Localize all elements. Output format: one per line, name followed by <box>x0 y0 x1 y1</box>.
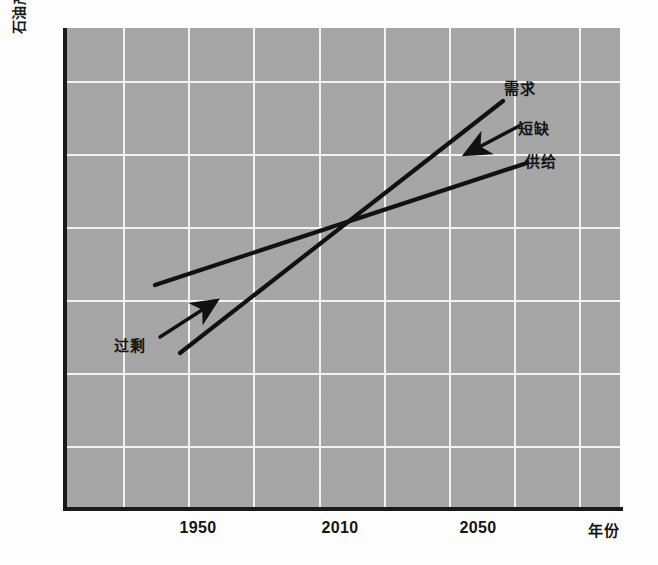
x-axis-spine <box>63 507 623 511</box>
x-tick-label-1950: 1950 <box>148 519 248 537</box>
series-label-surplus: 过剩 <box>114 334 145 355</box>
gridline-vertical <box>579 28 581 507</box>
gridline-horizontal <box>66 300 620 302</box>
gridline-vertical <box>514 28 516 507</box>
gridline-vertical <box>123 28 125 507</box>
gridline-horizontal <box>66 373 620 375</box>
gridline-horizontal <box>66 446 620 448</box>
x-tick-label-2010: 2010 <box>290 519 390 537</box>
x-tick-label-2050: 2050 <box>428 519 528 537</box>
x-axis-title: 年份 <box>588 519 619 540</box>
plot-texture <box>66 28 620 507</box>
series-label-supply: 供给 <box>525 150 556 171</box>
plot-area <box>66 28 620 507</box>
gridline-horizontal <box>66 81 620 83</box>
gridline-vertical <box>188 28 190 507</box>
series-label-demand: 需求 <box>504 77 535 98</box>
series-label-shortage: 短缺 <box>518 117 549 138</box>
gridline-vertical <box>253 28 255 507</box>
gridline-vertical <box>449 28 451 507</box>
gridline-vertical <box>319 28 321 507</box>
y-axis-title: 石油产量 <box>8 0 30 34</box>
y-axis-spine <box>63 28 67 511</box>
gridline-horizontal <box>66 227 620 229</box>
gridline-vertical <box>384 28 386 507</box>
oil-production-chart-figure: 石油产量 <box>0 0 658 565</box>
